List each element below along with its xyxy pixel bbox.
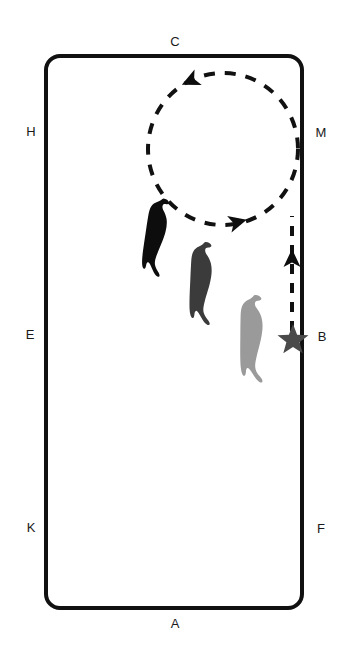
dressage-arena-diagram xyxy=(0,0,348,655)
marker-f: F xyxy=(317,522,325,535)
arena-boundary xyxy=(46,56,302,608)
marker-b: B xyxy=(318,330,327,343)
marker-a: A xyxy=(171,617,180,630)
marker-k: K xyxy=(27,521,36,534)
marker-e: E xyxy=(26,328,35,341)
marker-m: M xyxy=(316,126,327,139)
marker-c: C xyxy=(170,35,179,48)
marker-h: H xyxy=(26,125,35,138)
